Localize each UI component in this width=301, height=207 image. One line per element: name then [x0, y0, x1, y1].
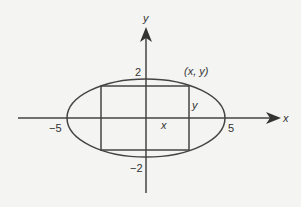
- corner-point-label: (x, y): [184, 65, 209, 77]
- ellipse-rectangle-diagram: y x −5 5 2 −2 (x, y) y x: [0, 0, 301, 207]
- half-height-label: y: [191, 99, 199, 111]
- tick-x-pos: 5: [228, 122, 234, 134]
- tick-y-pos: 2: [135, 66, 141, 78]
- half-width-label: x: [160, 119, 167, 131]
- tick-x-neg: −5: [49, 122, 62, 134]
- y-axis-label: y: [142, 12, 150, 24]
- x-axis-label: x: [282, 112, 289, 124]
- tick-y-neg: −2: [130, 162, 143, 174]
